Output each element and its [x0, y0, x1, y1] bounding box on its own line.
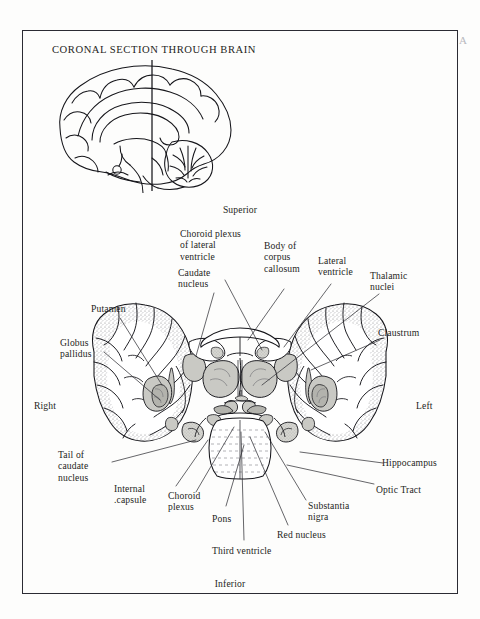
- label-body-of-corpus-callosum: Body of corpus callosum: [264, 240, 300, 274]
- label-caudate-nucleus: Caudate nucleus: [178, 267, 210, 290]
- label-third-ventricle: Third ventricle: [212, 545, 272, 556]
- label-substantia-nigra: Substantia nigra: [308, 500, 349, 523]
- label-thalamic-nuclei: Thalamic nuclei: [370, 270, 407, 293]
- tail-caudate-structure-left: [302, 417, 315, 430]
- label-claustrum: Claustrum: [378, 327, 419, 338]
- label-optic-tract: Optic Tract: [376, 484, 421, 495]
- label-hippocampus: Hippocampus: [382, 457, 437, 468]
- figure-title: CORONAL SECTION THROUGH BRAIN: [52, 44, 256, 55]
- label-pons: Pons: [212, 513, 231, 524]
- choroid-plexus-lateral-structure: [211, 347, 223, 358]
- label-lateral-ventricle: Lateral ventricle: [318, 255, 353, 278]
- orientation-right-label: Right: [34, 400, 56, 411]
- globus-pallidus-structure: [152, 385, 168, 407]
- orientation-left-label: Left: [416, 400, 433, 411]
- orientation-superior-label: Superior: [184, 204, 296, 215]
- label-tail-of-caudate-nucleus: Tail of caudate nucleus: [58, 449, 88, 483]
- label-putamen: Putamen: [91, 303, 126, 314]
- hippocampus-structure-right: [182, 422, 204, 442]
- thalamic-nuclei-structure-right: [203, 361, 239, 398]
- globus-pallidus-structure-left: [312, 385, 328, 407]
- label-internal-capsule: Internal .capsule: [114, 483, 146, 506]
- label-globus-pallidus: Globus pallidus: [60, 337, 92, 360]
- choroid-plexus-lateral-structure-left: [257, 347, 269, 358]
- sagittal-brain-inset: [48, 58, 248, 193]
- corner-plate-mark: A: [459, 34, 467, 46]
- label-choroid-plexus: Choroid plexus: [168, 490, 201, 513]
- coronal-brain-section: [88, 290, 392, 512]
- thalamic-nuclei-structure-left: [241, 361, 277, 398]
- label-choroid-plexus-lateral-ventricle: Choroid plexus of lateral ventricle: [180, 228, 241, 262]
- hippocampus-structure-left: [276, 422, 298, 442]
- label-red-nucleus: Red nucleus: [277, 529, 326, 540]
- orientation-inferior-label: Inferior: [174, 578, 286, 589]
- tail-caudate-structure: [165, 417, 178, 430]
- page-canvas: A CORONAL SECTION THROUGH BRAIN: [0, 0, 480, 619]
